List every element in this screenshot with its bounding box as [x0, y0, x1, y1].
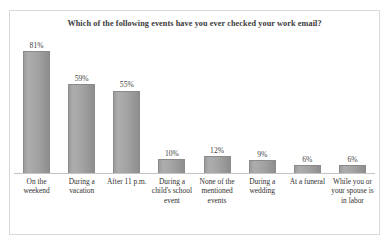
x-axis-label: During a wedding — [240, 177, 285, 205]
bar[interactable] — [158, 159, 185, 174]
bar-group-none-of-the-mentioned-events: 12% — [195, 37, 240, 174]
bar-group-at-a-funeral: 6% — [285, 37, 330, 174]
bar-series: 81% 59% 55% 10% 12% 9% — [14, 37, 375, 174]
bar-value-label: 55% — [104, 81, 149, 89]
bar-value-label: 59% — [59, 75, 104, 83]
bar[interactable] — [113, 91, 140, 175]
bar-group-on-the-weekend: 81% — [14, 37, 59, 174]
bar[interactable] — [249, 160, 276, 174]
bar-value-label: 81% — [14, 42, 59, 50]
bar-value-label: 12% — [195, 147, 240, 155]
x-axis-label: After 11 p.m. — [104, 177, 149, 205]
chart-title: Which of the following events have you e… — [10, 19, 379, 28]
bar-value-label: 6% — [330, 156, 375, 164]
x-axis-label: While you or your spouse is in labor — [330, 177, 375, 205]
bar-group-during-a-vacation: 59% — [59, 37, 104, 174]
x-axis-label: On the weekend — [14, 177, 59, 205]
x-axis-label: At a funeral — [285, 177, 330, 205]
x-axis-label: None of the mentioned events — [195, 177, 240, 205]
plot-area: 81% 59% 55% 10% 12% 9% — [14, 37, 375, 174]
bar-group-during-a-wedding: 9% — [240, 37, 285, 174]
x-axis-labels: On the weekend During a vacation After 1… — [14, 177, 375, 205]
bar-group-while-you-or-your-spouse-is-in-labor: 6% — [330, 37, 375, 174]
x-axis-label: During a vacation — [59, 177, 104, 205]
bar-group-during-a-childs-school-event: 10% — [149, 37, 194, 174]
bar[interactable] — [204, 156, 231, 174]
bar-value-label: 6% — [285, 156, 330, 164]
bar[interactable] — [68, 84, 95, 174]
bar-value-label: 10% — [149, 150, 194, 158]
bar[interactable] — [23, 51, 50, 174]
bar-value-label: 9% — [240, 151, 285, 159]
bar-group-after-11-pm: 55% — [104, 37, 149, 174]
x-axis-label: During a child's school event — [149, 177, 194, 205]
chart-container: Which of the following events have you e… — [9, 10, 380, 235]
x-axis-line — [14, 173, 375, 174]
